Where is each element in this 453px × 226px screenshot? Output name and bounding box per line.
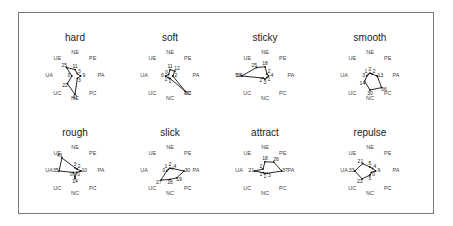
axis-label-pa: PA (98, 167, 105, 173)
axis-label-ua: UA (340, 167, 348, 173)
value-label: 30 (184, 167, 190, 173)
axis-label-ne: NE (71, 144, 79, 150)
axis-label-pa: PA (193, 72, 200, 78)
axis-label-ne: NE (71, 49, 79, 55)
value-label: 2 (259, 77, 262, 83)
value-label: 1 (260, 171, 263, 177)
value-label: 33 (349, 167, 355, 173)
axis-label-pa: PA (288, 72, 295, 78)
value-label: 27 (156, 179, 162, 185)
axis-label-ua: UA (340, 72, 348, 78)
axis-label-nc: NC (166, 95, 174, 101)
value-label: 0 (70, 171, 73, 177)
value-label: 50 (185, 90, 191, 96)
axis-label-ne: NE (366, 144, 374, 150)
radar-chart-attract: attractNEPEPAPCNCUCUAUE182637311212 (235, 127, 295, 196)
axis-label-uc: UC (348, 90, 356, 96)
axis-label-pe: PE (184, 150, 192, 156)
chart-title: sticky (253, 32, 278, 43)
value-label: 0 (165, 69, 168, 75)
axis-label-ue: UE (148, 150, 156, 156)
axis-label-ue: UE (243, 150, 251, 156)
radar-chart-grid: hardNEPEPAPCNCUCUAUE113934122325softNEPE… (0, 0, 453, 226)
data-point (262, 77, 264, 79)
value-label: 25 (62, 62, 68, 68)
data-point (264, 66, 266, 68)
axis-label-pe: PE (89, 55, 97, 61)
value-label: 3 (78, 77, 81, 83)
axis-label-pa: PA (98, 72, 105, 78)
value-label: 23 (357, 178, 363, 184)
axis-label-uc: UC (243, 90, 251, 96)
value-label: 53 (236, 72, 242, 78)
axis-label-pa: PA (393, 72, 400, 78)
value-label: 0 (372, 171, 375, 177)
axis-label-ne: NE (261, 144, 269, 150)
axis-label-pc: PC (279, 185, 287, 191)
value-label: 22 (62, 82, 68, 88)
radar-chart-soft: softNEPEPAPCNCUCUAUE11122501160 (140, 32, 200, 101)
value-label: 3 (268, 172, 271, 178)
axis-label-ua: UA (140, 72, 148, 78)
axis-label-ue: UE (243, 55, 251, 61)
value-label: 6 (161, 72, 164, 78)
data-point (167, 77, 169, 79)
chart-title: repulse (354, 127, 387, 138)
value-label: 9 (82, 72, 85, 78)
axis-label-pc: PC (89, 90, 97, 96)
data-point (166, 170, 168, 172)
value-label: 3 (78, 68, 81, 74)
data-point (73, 172, 75, 174)
value-label: 41 (57, 152, 63, 158)
axis-label-pe: PE (384, 55, 392, 61)
axis-label-pe: PE (184, 55, 192, 61)
axis-label-nc: NC (261, 95, 269, 101)
axis-label-pe: PE (279, 55, 287, 61)
value-label: 26 (273, 156, 279, 162)
value-label: 35 (53, 167, 59, 173)
value-label: 5 (369, 175, 372, 181)
value-label: 1 (268, 76, 271, 82)
value-label: 2 (373, 68, 376, 74)
value-label: 10 (81, 167, 87, 173)
axis-label-pc: PC (89, 185, 97, 191)
axis-label-pc: PC (184, 185, 192, 191)
value-label: 41 (72, 94, 78, 100)
value-label: 1 (165, 76, 168, 82)
value-label: 18 (262, 60, 268, 66)
value-label: 25 (252, 62, 258, 68)
axis-label-nc: NC (166, 190, 174, 196)
data-point (366, 75, 368, 77)
axis-label-ne: NE (166, 144, 174, 150)
value-label: 3 (74, 161, 77, 167)
value-label: 11 (167, 63, 172, 69)
chart-title: rough (62, 127, 88, 138)
axis-label-ua: UA (45, 72, 53, 78)
value-label: 18 (262, 155, 268, 161)
axis-label-pc: PC (384, 185, 392, 191)
radar-chart-repulse: repulseNEPEPAPCNCUCUAUE54905233321 (340, 127, 400, 196)
data-polygon (242, 67, 269, 79)
radar-chart-smooth: smoothNEPEPAPCNCUCUAUE221336301431 (340, 32, 400, 101)
value-label: 0 (77, 171, 80, 177)
value-label: 12 (174, 65, 180, 71)
data-point (369, 72, 371, 74)
data-point (71, 75, 73, 77)
value-label: 2 (259, 163, 262, 169)
data-point (369, 166, 371, 168)
radar-chart-slick: slickNEPEPAPCNCUCUAUE243019162731 (140, 127, 200, 196)
axis-label-nc: NC (71, 190, 79, 196)
axis-label-nc: NC (261, 190, 269, 196)
axis-label-pc: PC (279, 90, 287, 96)
value-label: 21 (358, 158, 364, 164)
data-point (168, 74, 170, 76)
chart-title: hard (65, 32, 85, 43)
chart-title: attract (251, 127, 279, 138)
radar-chart-rough: roughNEPEPAPCNCUCUAUE321001403541 (45, 127, 105, 196)
radar-chart-hard: hardNEPEPAPCNCUCUAUE113934122325 (45, 32, 105, 101)
value-label: 13 (378, 72, 384, 78)
axis-label-ua: UA (45, 167, 53, 173)
value-label: 2 (169, 161, 172, 167)
axis-label-uc: UC (243, 185, 251, 191)
axis-label-pe: PE (89, 150, 97, 156)
